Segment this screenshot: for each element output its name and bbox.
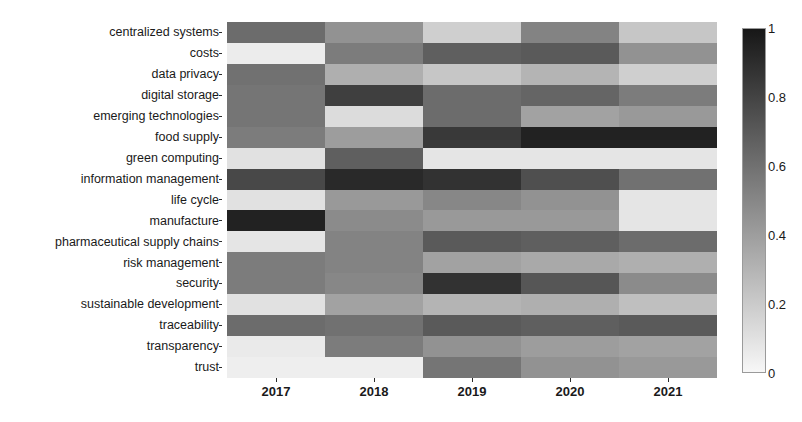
- y-axis-tick-mark: [219, 304, 222, 305]
- y-axis-tick-label: risk management: [123, 257, 219, 270]
- heatmap-cell: [325, 231, 423, 252]
- y-axis-labels: centralized systemscostsdata privacydigi…: [0, 22, 222, 378]
- heatmap-cell: [423, 169, 521, 190]
- heatmap-cell: [423, 190, 521, 211]
- heatmap-cell: [521, 190, 619, 211]
- heatmap-cell: [325, 43, 423, 64]
- heatmap-cell: [423, 315, 521, 336]
- heatmap-cell: [423, 106, 521, 127]
- heatmap-cell: [521, 210, 619, 231]
- x-axis-tick-label: 2021: [619, 385, 717, 398]
- heatmap-cell: [619, 22, 717, 43]
- y-axis-tick-label: centralized systems: [109, 26, 219, 39]
- heatmap-cell: [325, 169, 423, 190]
- y-axis-tick-label: emerging technologies: [93, 110, 219, 123]
- heatmap-cell: [521, 294, 619, 315]
- heatmap-cell: [619, 148, 717, 169]
- heatmap-cell: [325, 127, 423, 148]
- heatmap-cell: [521, 85, 619, 106]
- heatmap-cell: [227, 43, 325, 64]
- heatmap-cell: [423, 64, 521, 85]
- heatmap-cell: [423, 210, 521, 231]
- heatmap-cell: [325, 252, 423, 273]
- y-axis-tick-information-management: information management: [0, 169, 222, 190]
- y-axis-tick-mark: [219, 116, 222, 117]
- heatmap-cell: [325, 190, 423, 211]
- heatmap-cell: [325, 357, 423, 378]
- y-axis-tick-centralized-systems: centralized systems: [0, 22, 222, 43]
- y-axis-tick-life-cycle: life cycle: [0, 190, 222, 211]
- heatmap-cell: [619, 315, 717, 336]
- x-axis-tick-mark: [472, 378, 473, 382]
- heatmap-cell: [227, 273, 325, 294]
- y-axis-tick-label: security: [176, 277, 219, 290]
- heatmap-cell: [325, 106, 423, 127]
- heatmap-cell: [521, 106, 619, 127]
- heatmap-cell: [521, 169, 619, 190]
- y-axis-tick-food-supply: food supply: [0, 127, 222, 148]
- y-axis-tick-label: information management: [81, 173, 219, 186]
- y-axis-tick-label: food supply: [155, 131, 219, 144]
- heatmap-cell: [521, 252, 619, 273]
- heatmap-cell: [619, 64, 717, 85]
- heatmap-cell: [619, 210, 717, 231]
- heatmap-cell: [423, 22, 521, 43]
- colorbar-tick-label: 0.8: [768, 91, 786, 104]
- y-axis-tick-mark: [219, 74, 222, 75]
- y-axis-tick-mark: [219, 53, 222, 54]
- heatmap-cell: [227, 231, 325, 252]
- colorbar-tick-label: 1: [768, 22, 775, 35]
- heatmap-cell: [227, 22, 325, 43]
- heatmap-cell: [619, 169, 717, 190]
- x-axis-tick-2019: 2019: [423, 378, 521, 398]
- y-axis-tick-green-computing: green computing: [0, 148, 222, 169]
- heatmap-cell: [619, 85, 717, 106]
- y-axis-tick-security: security: [0, 273, 222, 294]
- heatmap-cell: [227, 106, 325, 127]
- y-axis-tick-mark: [219, 137, 222, 138]
- y-axis-tick-label: data privacy: [152, 68, 219, 81]
- x-axis-tick-label: 2017: [227, 385, 325, 398]
- heatmap-cell: [619, 190, 717, 211]
- y-axis-tick-manufacture: manufacture: [0, 210, 222, 231]
- y-axis-tick-traceability: traceability: [0, 315, 222, 336]
- y-axis-tick-pharmaceutical-supply-chains: pharmaceutical supply chains: [0, 231, 222, 252]
- y-axis-tick-transparency: transparency: [0, 336, 222, 357]
- y-axis-tick-mark: [219, 346, 222, 347]
- heatmap-cell: [325, 22, 423, 43]
- heatmap-cell: [325, 85, 423, 106]
- y-axis-tick-mark: [219, 158, 222, 159]
- heatmap-figure: centralized systemscostsdata privacydigi…: [0, 0, 802, 422]
- y-axis-tick-label: trust: [195, 361, 219, 374]
- y-axis-tick-mark: [219, 95, 222, 96]
- heatmap-cell: [619, 273, 717, 294]
- y-axis-tick-data-privacy: data privacy: [0, 64, 222, 85]
- heatmap-cell: [619, 106, 717, 127]
- x-axis-tick-label: 2018: [325, 385, 423, 398]
- heatmap-cell: [423, 43, 521, 64]
- heatmap-cell: [325, 273, 423, 294]
- heatmap-cell: [227, 64, 325, 85]
- y-axis-tick-mark: [219, 199, 222, 200]
- heatmap-cell: [227, 294, 325, 315]
- colorbar-tick-label: 0.6: [768, 160, 786, 173]
- y-axis-tick-emerging-technologies: emerging technologies: [0, 106, 222, 127]
- heatmap-cell: [521, 315, 619, 336]
- heatmap-cell: [619, 294, 717, 315]
- heatmap-cell: [227, 85, 325, 106]
- x-axis-tick-2020: 2020: [521, 378, 619, 398]
- y-axis-tick-mark: [219, 220, 222, 221]
- heatmap-cell: [423, 294, 521, 315]
- y-axis-tick-mark: [219, 262, 222, 263]
- y-axis-tick-mark: [219, 179, 222, 180]
- y-axis-tick-costs: costs: [0, 43, 222, 64]
- heatmap-cell: [325, 336, 423, 357]
- heatmap-cell: [619, 336, 717, 357]
- heatmap-cell: [619, 252, 717, 273]
- heatmap-cell: [325, 210, 423, 231]
- heatmap-cell: [521, 273, 619, 294]
- heatmap-cell: [423, 252, 521, 273]
- heatmap-cell: [619, 127, 717, 148]
- y-axis-tick-mark: [219, 367, 222, 368]
- heatmap-cell: [227, 190, 325, 211]
